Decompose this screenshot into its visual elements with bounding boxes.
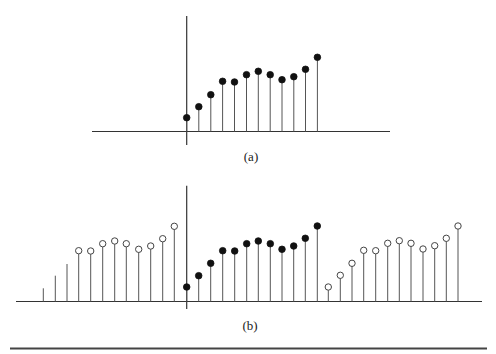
open-sample-marker [385, 240, 391, 246]
panel-b-periodic-extension [16, 186, 482, 309]
filled-sample-marker [279, 76, 286, 83]
filled-sample-marker [208, 91, 215, 98]
open-sample-marker [408, 240, 414, 246]
filled-sample-marker [243, 71, 250, 78]
open-sample-marker [100, 241, 106, 247]
open-sample-marker [136, 246, 142, 252]
filled-sample-marker [231, 79, 238, 86]
filled-sample-marker [267, 71, 274, 78]
filled-sample-marker [196, 103, 203, 110]
panel-a-periodic-signal-one-period [92, 16, 390, 145]
filled-sample-marker [279, 246, 286, 253]
panel-b-caption: (b) [242, 318, 257, 334]
open-sample-marker [123, 241, 129, 247]
open-sample-marker [396, 238, 402, 244]
stem-plot-figure [0, 0, 496, 354]
open-sample-marker [361, 247, 367, 253]
open-sample-marker [432, 243, 438, 249]
filled-sample-marker [183, 114, 190, 121]
filled-sample-marker [219, 78, 226, 85]
filled-sample-marker [314, 223, 321, 230]
filled-sample-marker [291, 73, 298, 80]
open-sample-marker [76, 248, 82, 254]
open-sample-marker [171, 223, 177, 229]
open-sample-marker [112, 238, 118, 244]
open-sample-marker [160, 236, 166, 242]
filled-sample-marker [207, 260, 214, 267]
filled-sample-marker [243, 240, 250, 247]
panel-a-caption: (a) [244, 149, 258, 165]
open-sample-marker [420, 246, 426, 252]
filled-sample-marker [255, 68, 262, 75]
filled-sample-marker [255, 238, 262, 245]
filled-sample-marker [231, 248, 238, 255]
open-sample-marker [148, 243, 154, 249]
open-sample-marker [337, 272, 343, 278]
open-sample-marker [455, 223, 461, 229]
filled-sample-marker [314, 54, 321, 61]
open-sample-marker [349, 260, 355, 266]
open-sample-marker [325, 284, 331, 290]
filled-sample-marker [302, 66, 309, 73]
filled-sample-marker [195, 272, 202, 279]
open-sample-marker [373, 248, 379, 254]
open-sample-marker [443, 235, 449, 241]
filled-sample-marker [267, 240, 274, 247]
filled-sample-marker [290, 243, 297, 250]
filled-sample-marker [219, 247, 226, 254]
open-sample-marker [88, 248, 94, 254]
filled-sample-marker [183, 284, 190, 291]
filled-sample-marker [302, 235, 309, 242]
